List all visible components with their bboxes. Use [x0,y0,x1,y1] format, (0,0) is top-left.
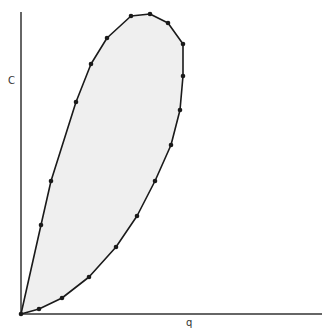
boundary-point [37,307,42,312]
boundary-point [87,275,92,280]
x-axis-label: q [186,317,192,328]
boundary-point [148,12,153,17]
boundary-point [135,214,140,219]
boundary-point [181,74,186,79]
boundary-point [169,143,174,148]
boundary-point [178,108,183,113]
boundary-point [60,296,65,301]
boundary-point [19,312,24,317]
boundary-point [181,42,186,47]
boundary-point [114,245,119,250]
diagram [0,0,334,335]
boundary-point [166,21,171,26]
boundary-point [89,62,94,67]
boundary-point [129,14,134,19]
boundary-point [39,223,44,228]
boundary-point [74,100,79,105]
boundary-point [153,179,158,184]
shaded-region [21,14,183,314]
boundary-point [49,179,54,184]
boundary-point [105,36,110,41]
y-axis-label: C [8,75,15,86]
